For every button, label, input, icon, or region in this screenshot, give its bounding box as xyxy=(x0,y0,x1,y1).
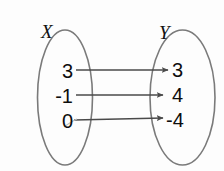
domain-element-2: -1 xyxy=(40,86,73,106)
codomain-element-3: -4 xyxy=(166,110,212,130)
domain-element-1: 3 xyxy=(40,61,73,81)
domain-element-3: 0 xyxy=(40,111,73,131)
domain-set-label: X xyxy=(41,22,53,41)
mapping-diagram-figure: X Y 3 -1 0 3 4 -4 xyxy=(0,0,224,171)
codomain-element-2: 4 xyxy=(172,85,212,105)
mapping-arrow-3 xyxy=(74,118,163,120)
codomain-element-1: 3 xyxy=(172,60,212,80)
codomain-set-label: Y xyxy=(159,23,170,42)
